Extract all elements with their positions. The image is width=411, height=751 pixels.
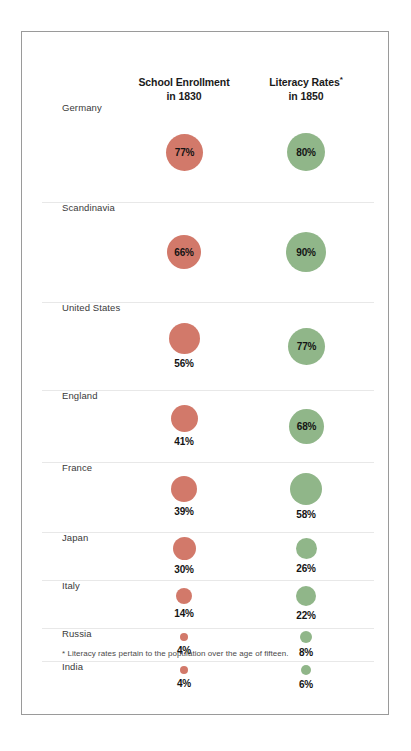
table-row: Scandinavia66%90% [22,202,388,302]
chart-frame: School Enrollment in 1830 Literacy Rates… [21,31,389,715]
column-header-school-enrollment: School Enrollment in 1830 [122,76,246,103]
table-row: France39%58% [22,462,388,532]
bubble-cell-green: 58% [247,462,365,532]
column-header-line2: in 1850 [247,90,365,104]
bubble-red [171,476,197,502]
bubble-cell-red: 56% [122,302,246,390]
column-header-line1: School Enrollment [138,76,229,88]
row-label-russia: Russia [62,628,92,639]
footnote-marker-icon: * [340,75,343,84]
bubble-value-label: 30% [122,564,246,575]
row-label-germany: Germany [62,102,102,113]
bubble-red [169,323,200,354]
footnote: * Literacy rates pertain to the populati… [62,649,289,658]
bubble-value-label: 80% [296,147,315,158]
table-row: Germany77%80% [22,102,388,202]
bubble-cell-red: 66% [122,202,246,302]
bubble-red: 77% [166,134,203,171]
bubble-value-label: 4% [122,678,246,689]
bubble-red: 66% [167,235,201,269]
bubble-value-label: 26% [247,563,365,574]
bubble-red [173,537,196,560]
bubble-cell-red: 4% [122,661,246,694]
bubble-cell-red: 41% [122,390,246,462]
row-label-england: England [62,390,98,401]
bubble-red [180,666,188,674]
bubble-value-label: 68% [297,421,316,432]
bubble-green [301,665,311,675]
bubble-green [300,631,312,643]
bubble-value-label: 77% [297,341,316,352]
bubble-value-label: 14% [122,608,246,619]
bubble-green: 80% [287,133,325,171]
row-label-india: India [62,661,83,672]
table-row: United States56%77% [22,302,388,390]
bubble-cell-green: 77% [247,302,365,390]
column-header-line1: Literacy Rates [269,76,339,88]
table-row: Japan30%26% [22,532,388,580]
column-header-literacy-rates: Literacy Rates* in 1850 [247,76,365,103]
table-row: Italy14%22% [22,580,388,628]
bubble-cell-green: 68% [247,390,365,462]
bubble-value-label: 22% [247,610,365,621]
bubble-green: 68% [289,409,324,444]
row-label-scandinavia: Scandinavia [62,202,115,213]
row-label-japan: Japan [62,532,88,543]
bubble-red [171,405,198,432]
bubble-cell-green: 6% [247,661,365,694]
bubble-green [290,473,322,505]
table-row: India4%6% [22,661,388,694]
bubble-green: 77% [288,328,325,365]
bubble-green: 90% [286,232,326,272]
bubble-red [180,633,188,641]
bubble-value-label: 41% [122,436,246,447]
bubble-cell-green: 80% [247,102,365,202]
bubble-value-label: 6% [247,679,365,690]
bubble-value-label: 58% [247,509,365,520]
bubble-value-label: 66% [174,247,193,258]
row-label-united-states: United States [62,302,120,313]
bubble-cell-red: 77% [122,102,246,202]
table-row: England41%68% [22,390,388,462]
row-label-france: France [62,462,92,473]
bubble-green [296,538,317,559]
column-header-line2: in 1830 [122,90,246,104]
bubble-cell-red: 14% [122,580,246,628]
bubble-cell-red: 39% [122,462,246,532]
bubble-green [296,586,316,606]
row-label-italy: Italy [62,580,80,591]
bubble-cell-red: 30% [122,532,246,580]
bubble-cell-green: 22% [247,580,365,628]
bubble-cell-green: 90% [247,202,365,302]
bubble-cell-green: 26% [247,532,365,580]
bubble-red [176,588,192,604]
bubble-value-label: 90% [296,247,315,258]
bubble-value-label: 77% [175,147,194,158]
bubble-value-label: 39% [122,506,246,517]
bubble-value-label: 56% [122,358,246,369]
